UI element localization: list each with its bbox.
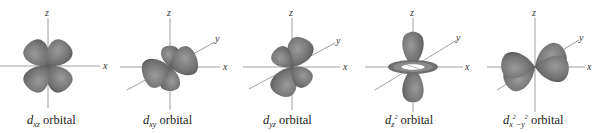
z-axis-label: z (288, 7, 293, 18)
caption-dyz: dyz orbital (263, 113, 312, 129)
dyz-orbital-diagram: z y x (235, 0, 355, 113)
panel-dxy: z y x dxy orbital (115, 0, 235, 133)
x-axis-label: x (586, 61, 592, 72)
z-axis-label: z (409, 7, 414, 18)
caption-dxy: dxy orbital (143, 113, 192, 129)
dxy-orbital-diagram: z y x (115, 0, 235, 113)
dx2-y2-orbital-diagram: y x z (475, 0, 597, 113)
y-axis-label: y (214, 33, 220, 44)
z-axis-label: z (166, 7, 171, 18)
caption-dx2-y2: dx2−y2 orbital (503, 113, 564, 129)
caption-dxz: dxz orbital (27, 113, 76, 129)
panel-dx2-y2: y x z dx2−y2 orbital (475, 0, 597, 133)
x-axis-label: x (464, 61, 470, 72)
x-axis-label: x (102, 60, 108, 71)
dz2-orbital-diagram: z y x (355, 0, 475, 113)
y-axis-label: y (335, 35, 341, 46)
x-axis-label: x (222, 61, 228, 72)
dxz-orbital-diagram: z x (0, 0, 120, 113)
x-axis-label: x (342, 61, 348, 72)
panel-dyz: z y x dyz orbital (235, 0, 355, 133)
panel-dxz: z x dxz orbital (0, 0, 120, 133)
panel-dz2: z y x dz2 orbital (355, 0, 475, 133)
y-axis-label: y (455, 32, 461, 43)
z-axis-label: z (44, 7, 49, 18)
y-axis-label: y (578, 32, 584, 43)
z-axis-label: z (531, 7, 536, 18)
caption-dz2: dz2 orbital (385, 113, 433, 129)
